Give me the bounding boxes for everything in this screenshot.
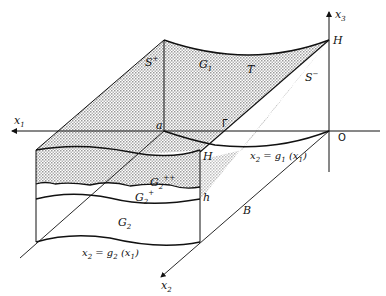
label-curve-g2: x2 = g2 (x1)	[82, 247, 139, 261]
label-x3: x3	[335, 8, 346, 23]
label-S-minus: S−	[305, 70, 319, 84]
label-x1: x1	[14, 114, 25, 129]
curve-g2	[36, 236, 200, 245]
label-origin: O	[338, 132, 346, 143]
label-H-top: H	[332, 34, 343, 47]
label-a: a	[156, 119, 163, 132]
curve-G2p-boundary	[36, 194, 200, 203]
label-Gamma: Γ	[222, 118, 228, 129]
region-G2pp-shaded	[36, 146, 200, 188]
label-G2: G2	[118, 216, 132, 231]
label-curve-g1: x2 = g1 (x1)	[250, 150, 307, 164]
diagram-canvas: x1 x3 x2 H H O a S+ S− G1 T Γ G2++ G2+ G…	[0, 0, 386, 296]
label-H-front: H	[202, 150, 213, 163]
label-x2: x2	[161, 279, 172, 294]
label-h: h	[203, 191, 210, 204]
label-B: B	[242, 204, 251, 217]
diagram-figure: x1 x3 x2 H H O a S+ S− G1 T Γ G2++ G2+ G…	[0, 0, 386, 296]
